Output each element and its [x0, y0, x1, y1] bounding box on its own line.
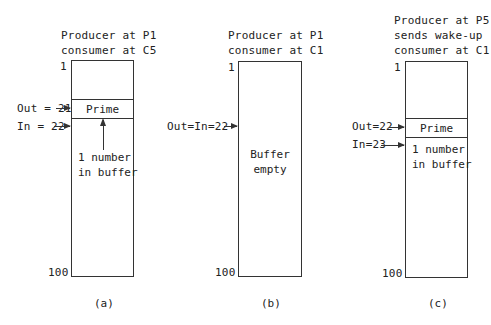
panel-a-caption: (a) — [94, 297, 114, 310]
panel-a-header-line1: Producer at P1 — [61, 29, 157, 42]
panel-c-bottom-index: 100 — [382, 267, 402, 280]
panel-c-out-arrow-icon — [389, 127, 404, 128]
panel-b-pointer-label: Out=In=22 — [167, 120, 228, 133]
panel-a-out-arrow-icon — [56, 108, 70, 109]
panel-a-top-index: 1 — [60, 60, 67, 73]
panel-c-header-line3: consumer at C1 — [394, 44, 490, 57]
buffer-b: Buffer empty — [238, 61, 302, 277]
panel-c-top-index: 1 — [394, 61, 401, 74]
panel-c-header-line2: sends wake-up — [394, 29, 483, 42]
buffer-c-prime-label: Prime — [420, 122, 453, 135]
buffer-a: Prime 1 number in buffer — [71, 60, 134, 277]
buffer-b-note-line2: empty — [239, 162, 301, 177]
buffer-c-prime-slot: Prime — [406, 118, 467, 138]
buffer-c-note-line2: in buffer — [412, 157, 472, 172]
panel-c-out-label: Out=22 — [352, 120, 393, 133]
panel-c-header-line1: Producer at P5 — [394, 14, 490, 27]
panel-b-caption: (b) — [261, 297, 281, 310]
buffer-a-note-line1: 1 number — [78, 150, 131, 165]
buffer-a-prime-slot: Prime — [72, 99, 133, 119]
panel-b-top-index: 1 — [228, 61, 235, 74]
panel-c-in-arrow-icon — [381, 145, 404, 146]
panel-a-in-arrow-icon — [54, 126, 70, 127]
buffer-c: Prime 1 number in buffer — [405, 61, 468, 278]
panel-b-header-line1: Producer at P1 — [228, 29, 324, 42]
panel-b-pointer-arrow-icon — [224, 126, 237, 127]
buffer-a-note-line2: in buffer — [78, 165, 138, 180]
buffer-b-note-line1: Buffer — [239, 147, 301, 162]
panel-b-header-line2: consumer at C1 — [228, 44, 324, 57]
panel-c-caption: (c) — [428, 297, 448, 310]
panel-a-bottom-index: 100 — [48, 266, 68, 279]
buffer-a-up-arrow-icon — [103, 120, 104, 150]
buffer-c-note-line1: 1 number — [412, 142, 465, 157]
panel-a-header-line2: consumer at C5 — [61, 44, 157, 57]
buffer-a-prime-label: Prime — [86, 103, 119, 116]
panel-b-bottom-index: 100 — [215, 266, 235, 279]
